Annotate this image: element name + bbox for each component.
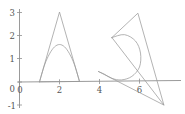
y-tick-label-1: 1 bbox=[10, 54, 15, 64]
y-tick-label-neg1: -1 bbox=[8, 101, 16, 111]
x-tick-label-4: 4 bbox=[97, 85, 102, 95]
y-tick-label-0: 0 bbox=[10, 84, 15, 94]
series-right-spiral bbox=[99, 35, 141, 80]
y-tick-label-2: 2 bbox=[10, 31, 15, 41]
series-left-triangle bbox=[40, 12, 80, 82]
x-tick-label-2: 2 bbox=[57, 85, 62, 95]
plot-canvas: 0 2 4 6 3 2 1 0 -1 bbox=[0, 0, 185, 114]
plot-figure: 0 2 4 6 3 2 1 0 -1 bbox=[0, 0, 185, 114]
x-tick-labels: 0 2 4 6 bbox=[17, 85, 142, 95]
y-tick-labels: 3 2 1 0 -1 bbox=[8, 8, 16, 111]
x-tick-label-0: 0 bbox=[17, 85, 22, 95]
y-tick-label-3: 3 bbox=[10, 8, 15, 18]
series-left-arch bbox=[40, 45, 80, 82]
